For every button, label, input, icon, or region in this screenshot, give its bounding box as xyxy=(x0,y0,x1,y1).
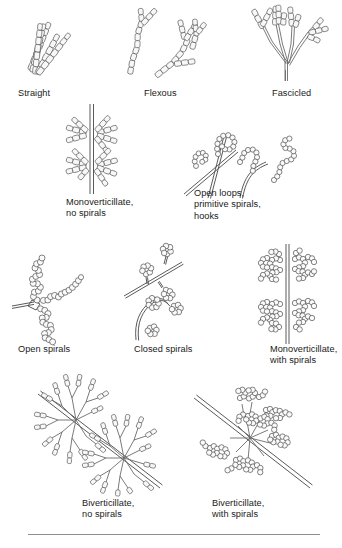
flexous-conidial-chains-icon xyxy=(118,4,228,82)
figure-item-monoverticillate-with-spirals: Monoverticillate, with spirals xyxy=(240,244,342,364)
monoverticillate-no-spirals-icon xyxy=(52,104,172,194)
figure-label-closed-spirals: Closed spirals xyxy=(134,344,192,355)
figure-label-monoverticillate-no-spirals: Monoverticillate, no spirals xyxy=(66,197,133,220)
monoverticillate-with-spirals-icon xyxy=(240,244,340,344)
bottom-divider-rule xyxy=(28,534,320,535)
figure-item-biverticillate-with-spirals: Biverticillate, with spirals xyxy=(188,376,342,521)
figure-label-biverticillate-with-spirals: Biverticillate, with spirals xyxy=(212,498,264,521)
morphology-figure: Straight xyxy=(0,0,342,548)
figure-item-open-spirals: Open spirals xyxy=(10,244,120,364)
figure-item-flexous: Flexous xyxy=(118,4,228,104)
figure-label-monoverticillate-with-spirals: Monoverticillate, with spirals xyxy=(270,344,337,367)
figure-label-biverticillate-no-spirals: Biverticillate, no spirals xyxy=(82,498,134,521)
figure-item-fascicled: Fascicled xyxy=(240,4,342,104)
figure-label-fascicled: Fascicled xyxy=(272,88,311,99)
biverticillate-with-spirals-icon xyxy=(188,376,328,494)
figure-label-flexous: Flexous xyxy=(144,88,177,99)
figure-item-open-loops: Open loops, primitive spirals, hooks xyxy=(178,110,338,230)
figure-label-straight: Straight xyxy=(18,88,50,99)
closed-spirals-icon xyxy=(116,244,220,342)
figure-item-closed-spirals: Closed spirals xyxy=(116,244,226,364)
biverticillate-no-spirals-icon xyxy=(28,376,178,494)
open-loops-hooks-icon xyxy=(178,110,318,200)
fascicled-conidiophore-icon xyxy=(240,4,342,82)
open-spirals-icon xyxy=(10,244,114,342)
figure-item-straight: Straight xyxy=(8,4,118,104)
figure-label-open-loops: Open loops, primitive spirals, hooks xyxy=(194,188,261,222)
figure-label-open-spirals: Open spirals xyxy=(18,344,70,355)
figure-item-monoverticillate-no-spirals: Monoverticillate, no spirals xyxy=(52,104,182,222)
straight-conidial-chains-icon xyxy=(8,4,118,82)
figure-item-biverticillate-no-spirals: Biverticillate, no spirals xyxy=(28,376,178,521)
